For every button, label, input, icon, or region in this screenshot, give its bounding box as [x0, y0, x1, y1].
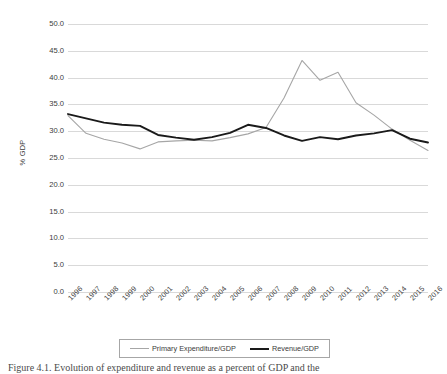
- legend-line-swatch: [250, 348, 269, 350]
- figure-caption: Figure 4.1. Evolution of expenditure and…: [8, 362, 439, 373]
- legend-line-swatch: [130, 348, 149, 349]
- y-axis-tick-label: 40.0: [28, 74, 64, 82]
- y-axis-tick-label: 25.0: [28, 154, 64, 162]
- y-axis-tick-label: 20.0: [28, 181, 64, 189]
- series-line: [68, 114, 428, 142]
- y-axis-tick-label: 30.0: [28, 127, 64, 135]
- chart-legend: Primary Expenditure/GDPRevenue/GDP: [119, 339, 330, 358]
- legend-label: Revenue/GDP: [272, 344, 319, 353]
- y-axis-tick-label: 50.0: [28, 20, 64, 28]
- x-axis-tick-labels: 1996199719981999200020012002200320042005…: [68, 294, 428, 338]
- y-axis-tick-label: 5.0: [28, 261, 64, 269]
- plot-area: [68, 24, 428, 292]
- legend-label: Primary Expenditure/GDP: [152, 344, 236, 353]
- series-lines: [68, 24, 428, 292]
- line-chart: % GDP 0.05.010.015.020.025.030.035.040.0…: [0, 0, 447, 340]
- figure-container: % GDP 0.05.010.015.020.025.030.035.040.0…: [0, 0, 447, 374]
- y-axis-tick-label: 35.0: [28, 100, 64, 108]
- legend-entry[interactable]: Primary Expenditure/GDP: [130, 344, 236, 353]
- y-axis-tick-label: 45.0: [28, 47, 64, 55]
- y-axis-tick-label: 10.0: [28, 234, 64, 242]
- y-axis-tick-label: 15.0: [28, 208, 64, 216]
- y-axis-tick-labels: 0.05.010.015.020.025.030.035.040.045.050…: [0, 0, 64, 340]
- series-line: [68, 60, 428, 150]
- legend-entry[interactable]: Revenue/GDP: [250, 344, 319, 353]
- y-axis-tick-label: 0.0: [28, 288, 64, 296]
- x-axis-tick-label: 2016: [426, 284, 444, 302]
